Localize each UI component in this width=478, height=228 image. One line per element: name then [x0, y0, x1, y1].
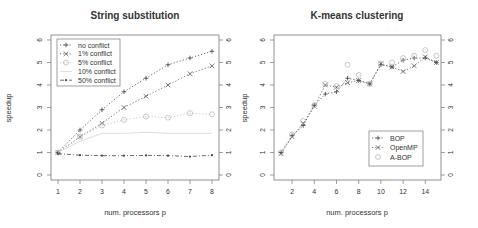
y-tick-label: 6	[36, 38, 43, 42]
y-tick-label: 4	[36, 83, 43, 87]
dot-marker-icon	[79, 154, 81, 156]
dot-marker-icon	[101, 155, 103, 157]
legend-label: 50% conflict	[78, 77, 116, 84]
circle-marker-icon	[345, 62, 350, 67]
y-axis-label: speedup	[240, 94, 249, 123]
legend-label: BOP	[390, 135, 405, 142]
x-axis-label: num. processors p	[326, 208, 388, 217]
y-tick-label: 3	[447, 105, 454, 109]
y-tick-label: 1	[259, 150, 266, 154]
x-tick-label: 2	[78, 188, 82, 195]
y-tick-label: 3	[36, 105, 43, 109]
chart-title: K-means clustering	[311, 10, 404, 21]
dot-marker-icon	[65, 79, 67, 81]
y-tick-label: 6	[225, 38, 232, 42]
y-tick-label: 2	[36, 128, 43, 132]
x-tick-label: 14	[421, 188, 429, 195]
y-tick-label: 0	[225, 173, 232, 177]
y-tick-label: 5	[259, 60, 266, 64]
y-axis-label: speedup	[4, 94, 13, 123]
y-tick-label: 4	[259, 83, 266, 87]
k-means-chart: K-means clustering 001122334455662468101…	[240, 10, 454, 217]
legend-label: 1% conflict	[78, 50, 112, 57]
circle-marker-icon	[390, 60, 395, 65]
x-tick-label: 6	[335, 188, 339, 195]
dot-marker-icon	[57, 153, 59, 155]
string-substitution-chart: String substitution 00112233445566123456…	[4, 10, 232, 217]
circle-marker-icon	[434, 53, 439, 58]
y-tick-label: 0	[36, 173, 43, 177]
axes: 001122334455662468101214	[259, 38, 454, 195]
legend-label: OpenMP	[390, 144, 418, 152]
y-tick-label: 0	[259, 173, 266, 177]
x-tick-label: 4	[312, 188, 316, 195]
circle-marker-icon	[356, 72, 361, 77]
y-tick-label: 5	[36, 60, 43, 64]
x-tick-label: 12	[399, 188, 407, 195]
y-tick-label: 2	[225, 128, 232, 132]
legend-label: 10% conflict	[78, 68, 116, 75]
circle-marker-icon	[423, 48, 428, 53]
y-tick-label: 6	[259, 38, 266, 42]
dot-marker-icon	[167, 155, 169, 157]
y-tick-label: 2	[259, 128, 266, 132]
x-tick-label: 10	[377, 188, 385, 195]
dot-marker-icon	[189, 155, 191, 157]
legend-label: 5% conflict	[78, 59, 112, 66]
dot-marker-icon	[123, 155, 125, 157]
x-tick-label: 6	[166, 188, 170, 195]
y-tick-label: 0	[447, 173, 454, 177]
chart-title: String substitution	[91, 10, 180, 21]
y-tick-label: 5	[225, 60, 232, 64]
figure: String substitution 00112233445566123456…	[0, 0, 478, 228]
x-tick-label: 4	[122, 188, 126, 195]
legend-label: no conflict	[78, 42, 110, 49]
legend: no conflict1% conflict5% conflict10% con…	[57, 39, 120, 86]
y-tick-label: 4	[447, 83, 454, 87]
series-line	[58, 154, 212, 157]
x-tick-label: 8	[357, 188, 361, 195]
y-tick-label: 4	[225, 83, 232, 87]
dot-marker-icon	[145, 154, 147, 156]
dot-marker-icon	[211, 154, 213, 156]
legend: BOPOpenMPA-BOP	[369, 131, 423, 166]
x-tick-label: 8	[210, 188, 214, 195]
x-axis-label: num. processors p	[104, 208, 166, 217]
y-tick-label: 3	[259, 105, 266, 109]
x-tick-label: 3	[100, 188, 104, 195]
legend-label: A-BOP	[390, 154, 412, 161]
y-tick-label: 2	[447, 128, 454, 132]
y-tick-label: 6	[447, 38, 454, 42]
x-tick-label: 5	[144, 188, 148, 195]
y-tick-label: 3	[225, 105, 232, 109]
circle-marker-icon	[334, 84, 339, 89]
y-tick-label: 1	[225, 150, 232, 154]
circle-marker-icon	[323, 81, 328, 86]
x-tick-label: 1	[56, 188, 60, 195]
x-tick-label: 7	[188, 188, 192, 195]
charts-canvas: String substitution 00112233445566123456…	[0, 0, 478, 228]
y-tick-label: 1	[36, 150, 43, 154]
series-50-conflict	[57, 153, 213, 158]
y-tick-label: 5	[447, 60, 454, 64]
y-tick-label: 1	[447, 150, 454, 154]
x-tick-label: 2	[290, 188, 294, 195]
